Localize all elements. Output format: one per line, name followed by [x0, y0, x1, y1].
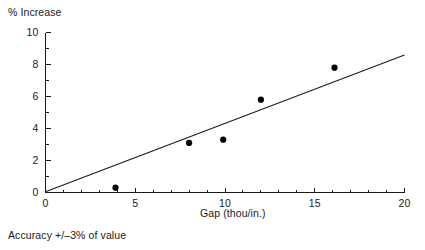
y-tick-label-6: 6	[13, 90, 39, 102]
x-tick-label-5: 5	[122, 197, 148, 209]
x-tick-label-20: 20	[392, 197, 418, 209]
data-point-4	[331, 65, 337, 71]
tick-marks	[46, 33, 405, 193]
axes	[46, 33, 405, 193]
x-tick-label-15: 15	[302, 197, 328, 209]
data-point-1	[186, 140, 192, 146]
y-tick-label-10: 10	[13, 26, 39, 38]
x-tick-label-10: 10	[212, 197, 238, 209]
x-tick-label-0: 0	[33, 197, 59, 209]
scatter-chart: % Increase Gap (thou/in.) Accuracy +/–3%…	[0, 0, 425, 250]
data-points	[112, 65, 337, 191]
plot-area	[0, 0, 425, 250]
trend-line	[46, 55, 405, 192]
data-point-3	[258, 97, 264, 103]
y-tick-label-8: 8	[13, 58, 39, 70]
y-tick-label-2: 2	[13, 154, 39, 166]
data-point-2	[220, 137, 226, 143]
data-point-0	[112, 185, 118, 191]
regression-line	[46, 55, 405, 192]
y-tick-label-4: 4	[13, 122, 39, 134]
